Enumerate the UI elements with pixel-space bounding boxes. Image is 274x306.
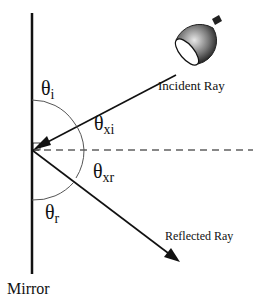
label-incident-ray: Incident Ray bbox=[158, 78, 225, 93]
arc-theta-r bbox=[32, 182, 74, 200]
label-reflected-ray: Reflected Ray bbox=[165, 229, 233, 243]
label-mirror: Mirror bbox=[7, 280, 50, 297]
label-theta-i: θi bbox=[41, 77, 55, 102]
arc-theta-i bbox=[32, 100, 73, 121]
label-theta-xr: θxr bbox=[93, 160, 115, 185]
label-theta-r: θr bbox=[45, 201, 60, 226]
lamp-icon bbox=[171, 15, 222, 69]
reflected-arrowhead bbox=[164, 248, 180, 262]
label-theta-xi: θxi bbox=[94, 112, 115, 137]
arc-theta-xr bbox=[76, 150, 84, 178]
reflection-diagram: θi θxi θxr θr Incident Ray Reflected Ray… bbox=[0, 0, 274, 306]
